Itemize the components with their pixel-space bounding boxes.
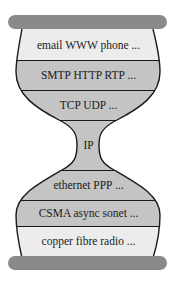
layer-label-mac: CSMA async sonet ... [0, 206, 177, 220]
layer-label-ip: IP [0, 138, 177, 152]
layer-label-physical: copper fibre radio ... [0, 234, 177, 248]
hourglass-diagram: email WWW phone ... SMTP HTTP RTP ... TC… [0, 0, 177, 285]
layer-label-app-protocols: SMTP HTTP RTP ... [0, 68, 177, 82]
layer-label-link: ethernet PPP ... [0, 178, 177, 192]
top-bar [8, 15, 167, 29]
layer-label-transport: TCP UDP ... [0, 98, 177, 112]
layer-label-application: email WWW phone ... [0, 38, 177, 52]
bottom-bar [8, 256, 167, 270]
